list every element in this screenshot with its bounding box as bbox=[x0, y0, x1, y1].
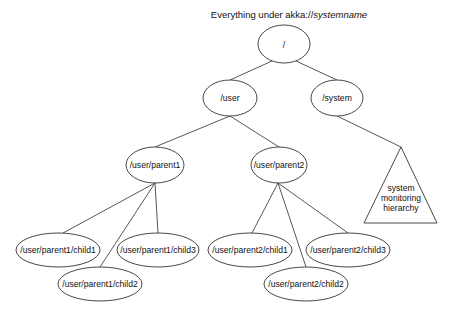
actor-hierarchy-diagram: Everything under akka://systemname / /us… bbox=[0, 0, 454, 319]
system-monitoring-hierarchy: system monitoring hierarchy bbox=[364, 147, 437, 223]
edge-root-system bbox=[296, 61, 337, 80]
node-parent1-label: /user/parent1 bbox=[130, 160, 181, 170]
node-system-label: /system bbox=[322, 93, 352, 103]
edge-parent2-child1 bbox=[252, 183, 278, 233]
node-p2child3: /user/parent2/child3 bbox=[306, 233, 390, 267]
node-p1child2: /user/parent1/child2 bbox=[58, 267, 142, 301]
node-p1child1-label: /user/parent1/child1 bbox=[20, 245, 96, 255]
node-p2child2-label: /user/parent2/child2 bbox=[268, 279, 344, 289]
edge-user-parent1 bbox=[155, 116, 230, 147]
edge-root-user bbox=[230, 61, 272, 80]
node-system: /system bbox=[311, 80, 363, 116]
node-root: / bbox=[258, 25, 310, 63]
hierarchy-label-line1: system bbox=[387, 183, 414, 193]
edge-user-parent2 bbox=[230, 116, 279, 147]
node-parent2-label: /user/parent2 bbox=[254, 160, 305, 170]
node-user-label: /user bbox=[220, 93, 239, 103]
node-parent2: /user/parent2 bbox=[251, 147, 307, 183]
node-user: /user bbox=[203, 80, 257, 116]
node-p1child3: /user/parent1/child3 bbox=[117, 233, 199, 267]
hierarchy-label-line3: hierarchy bbox=[383, 203, 419, 213]
diagram-title: Everything under akka://systemname bbox=[211, 9, 367, 20]
node-p2child2: /user/parent2/child2 bbox=[264, 267, 348, 301]
edge-parent1-child3 bbox=[155, 183, 158, 233]
node-p2child1-label: /user/parent2/child1 bbox=[212, 245, 288, 255]
node-parent1: /user/parent1 bbox=[126, 147, 184, 183]
title-prefix: Everything under akka:// bbox=[211, 9, 314, 20]
edge-parent2-child3 bbox=[278, 183, 348, 233]
title-systemname: systemname bbox=[313, 9, 367, 20]
edge-system-hierarchy bbox=[337, 116, 401, 147]
node-p2child3-label: /user/parent2/child3 bbox=[310, 245, 386, 255]
node-p1child3-label: /user/parent1/child3 bbox=[120, 245, 196, 255]
node-p2child1: /user/parent2/child1 bbox=[208, 233, 292, 267]
edge-parent1-child1 bbox=[63, 183, 155, 233]
node-p1child1: /user/parent1/child1 bbox=[16, 233, 100, 267]
node-p1child2-label: /user/parent1/child2 bbox=[62, 279, 138, 289]
hierarchy-label-line2: monitoring bbox=[381, 193, 421, 203]
